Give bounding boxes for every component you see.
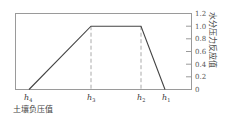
y-tick-0.8: 0.8 xyxy=(195,35,206,43)
x-tick-h2: h2 xyxy=(137,93,145,103)
x-tick-h4: h4 xyxy=(24,93,32,103)
y-axis-tick-labels: 1.2 1.0 0.8 0.6 0.4 0.2 0 xyxy=(195,10,207,94)
x-tick-h1: h1 xyxy=(162,93,170,103)
response-line xyxy=(29,26,165,89)
y-axis-title: 水分压力反应值 xyxy=(208,12,218,68)
plot-frame xyxy=(16,14,192,90)
y-tick-0: 0 xyxy=(195,86,199,94)
x-axis-title: 土壤负压值 xyxy=(13,104,53,114)
y-tick-0.4: 0.4 xyxy=(195,61,207,69)
x-axis-tick-labels: h4 h3 h2 h1 xyxy=(24,93,170,103)
y-axis-ticks xyxy=(186,26,192,77)
chart-svg: 1.2 1.0 0.8 0.6 0.4 0.2 0 水分压力反应值 h4 h3 … xyxy=(0,0,238,118)
x-tick-h3: h3 xyxy=(87,93,95,103)
y-tick-0.2: 0.2 xyxy=(195,73,206,81)
y-tick-1.2: 1.2 xyxy=(195,10,206,18)
y-tick-1.0: 1.0 xyxy=(195,23,206,31)
y-tick-0.6: 0.6 xyxy=(195,48,207,56)
